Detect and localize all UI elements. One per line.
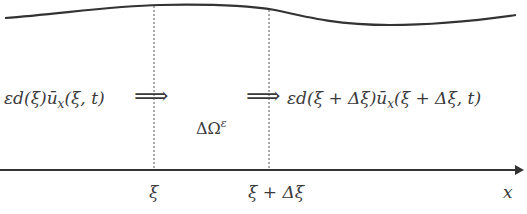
left-flux-arrow-icon: ⟹ bbox=[134, 82, 168, 110]
upper-boundary-curve bbox=[5, 5, 516, 25]
x-axis-arrowhead bbox=[515, 165, 524, 175]
domain-label: ΔΩε bbox=[196, 117, 227, 138]
left-flux-label: εd(ξ)ūx(ξ, t) bbox=[4, 88, 105, 111]
right-flux-arrow-icon: ⟹ bbox=[246, 82, 280, 110]
control-volume-diagram: εd(ξ)ūx(ξ, t) ⟹ ⟹ εd(ξ + Δξ)ūx(ξ + Δξ, t… bbox=[0, 0, 527, 214]
right-flux-label: εd(ξ + Δξ)ūx(ξ + Δξ, t) bbox=[287, 88, 481, 111]
tick-xi-plus-dxi: ξ + Δξ bbox=[248, 182, 306, 202]
tick-xi: ξ bbox=[149, 182, 160, 202]
axis-label-x: x bbox=[503, 182, 513, 202]
